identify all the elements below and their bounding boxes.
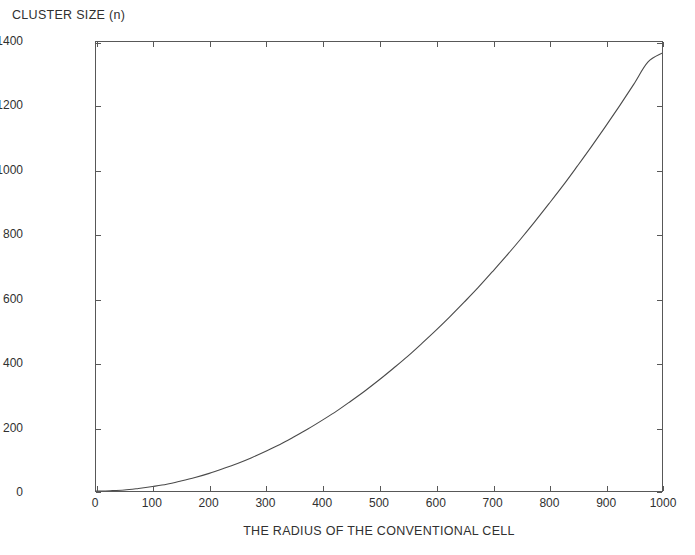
x-tick-label: 200 — [199, 496, 219, 510]
x-axis-tick-top — [437, 42, 438, 47]
x-axis-tick — [550, 486, 551, 491]
y-axis-tick-right — [657, 235, 662, 236]
x-axis-tick — [380, 486, 381, 491]
y-tick-label: 1400 — [0, 34, 23, 48]
x-axis-tick-top — [153, 42, 154, 47]
x-tick-label: 1000 — [650, 496, 677, 510]
y-axis-tick-right — [657, 300, 662, 301]
y-axis-tick — [96, 235, 101, 236]
x-axis-tick — [494, 486, 495, 491]
plot-area — [95, 41, 663, 492]
y-axis-tick-right — [657, 106, 662, 107]
x-axis-tick-top — [494, 42, 495, 47]
y-axis-label: CLUSTER SIZE (n) — [12, 8, 125, 22]
y-axis-tick — [96, 300, 101, 301]
y-tick-label: 1200 — [0, 98, 23, 112]
x-axis-tick-top — [210, 42, 211, 47]
x-axis-tick-top — [266, 42, 267, 47]
y-axis-tick — [96, 429, 101, 430]
x-tick-label: 300 — [255, 496, 275, 510]
y-axis-tick — [96, 43, 101, 44]
figure-canvas: CLUSTER SIZE (n) THE RADIUS OF THE CONVE… — [0, 0, 695, 555]
y-axis-tick — [96, 364, 101, 365]
y-axis-tick-right — [657, 492, 662, 493]
x-axis-tick-top — [380, 42, 381, 47]
data-curve — [96, 42, 662, 491]
x-axis-tick-top — [607, 42, 608, 47]
y-tick-label: 0 — [16, 485, 23, 499]
y-axis-tick — [96, 106, 101, 107]
x-tick-label: 600 — [426, 496, 446, 510]
y-axis-tick-right — [657, 43, 662, 44]
y-tick-label: 800 — [3, 227, 23, 241]
x-axis-tick — [663, 486, 664, 491]
x-axis-tick — [607, 486, 608, 491]
y-tick-label: 600 — [3, 292, 23, 306]
y-axis-tick-right — [657, 364, 662, 365]
y-tick-label: 1000 — [0, 163, 23, 177]
x-tick-label: 900 — [596, 496, 616, 510]
x-tick-label: 800 — [539, 496, 559, 510]
x-tick-label: 500 — [369, 496, 389, 510]
y-axis-tick — [96, 492, 101, 493]
x-axis-label: THE RADIUS OF THE CONVENTIONAL CELL — [95, 524, 663, 538]
x-tick-label: 0 — [92, 496, 99, 510]
y-axis-tick-right — [657, 171, 662, 172]
x-axis-tick-top — [663, 42, 664, 47]
y-tick-label: 400 — [3, 356, 23, 370]
x-tick-label: 100 — [142, 496, 162, 510]
y-axis-tick-right — [657, 429, 662, 430]
x-axis-tick — [437, 486, 438, 491]
x-tick-label: 400 — [312, 496, 332, 510]
x-axis-tick — [323, 486, 324, 491]
x-axis-tick — [266, 486, 267, 491]
x-axis-tick — [153, 486, 154, 491]
x-axis-tick-top — [323, 42, 324, 47]
y-axis-tick — [96, 171, 101, 172]
x-axis-tick — [97, 486, 98, 491]
y-tick-label: 200 — [3, 421, 23, 435]
x-axis-tick — [210, 486, 211, 491]
x-axis-tick-top — [550, 42, 551, 47]
x-tick-label: 700 — [483, 496, 503, 510]
